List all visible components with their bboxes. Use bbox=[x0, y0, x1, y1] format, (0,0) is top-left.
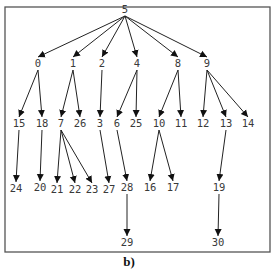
edge-5-to-2 bbox=[102, 16, 125, 57]
tree-node-6: 6 bbox=[114, 117, 120, 129]
edge-8-to-10 bbox=[159, 70, 178, 117]
tree-node-22: 22 bbox=[69, 183, 82, 195]
edge-10-to-17 bbox=[159, 130, 173, 181]
edge-9-to-12 bbox=[203, 70, 207, 117]
tree-node-28: 28 bbox=[121, 181, 134, 193]
edge-2-to-3 bbox=[100, 70, 102, 117]
tree-node-24: 24 bbox=[10, 182, 23, 194]
edge-8-to-11 bbox=[178, 70, 181, 117]
edge-7-to-23 bbox=[61, 130, 92, 183]
tree-node-1: 1 bbox=[70, 57, 76, 69]
edge-4-to-25 bbox=[136, 70, 137, 117]
tree-node-17: 17 bbox=[167, 181, 180, 193]
tree-node-7: 7 bbox=[58, 117, 64, 129]
edge-7-to-21 bbox=[57, 130, 61, 183]
edge-5-to-4 bbox=[125, 16, 137, 57]
edge-7-to-22 bbox=[61, 130, 75, 183]
edge-5-to-9 bbox=[125, 16, 207, 57]
diagram-frame bbox=[5, 7, 270, 252]
edge-0-to-18 bbox=[38, 70, 42, 117]
tree-node-5: 5 bbox=[122, 3, 128, 15]
figure-caption: b) bbox=[123, 254, 135, 269]
tree-node-27: 27 bbox=[103, 183, 116, 195]
tree-node-23: 23 bbox=[86, 183, 99, 195]
edge-9-to-13 bbox=[207, 70, 226, 117]
edge-3-to-27 bbox=[100, 130, 109, 183]
edge-10-to-16 bbox=[150, 130, 159, 181]
edge-13-to-19 bbox=[219, 130, 226, 181]
tree-node-0: 0 bbox=[35, 57, 41, 69]
edge-4-to-6 bbox=[117, 70, 137, 117]
tree-node-18: 18 bbox=[36, 117, 49, 129]
tree-node-3: 3 bbox=[97, 117, 103, 129]
edge-15-to-24 bbox=[16, 130, 19, 182]
tree-node-21: 21 bbox=[51, 183, 64, 195]
tree-node-25: 25 bbox=[130, 117, 143, 129]
edge-18-to-20 bbox=[40, 130, 42, 181]
tree-diagram: 5012489151872636251011121314242021222327… bbox=[0, 0, 273, 269]
tree-node-2: 2 bbox=[99, 57, 105, 69]
tree-node-14: 14 bbox=[242, 117, 255, 129]
tree-node-8: 8 bbox=[175, 57, 181, 69]
edge-19-to-30 bbox=[218, 194, 219, 236]
edge-5-to-8 bbox=[125, 16, 178, 57]
tree-node-29: 29 bbox=[121, 236, 134, 248]
edge-6-to-28 bbox=[117, 130, 127, 181]
tree-diagram-figure: 5012489151872636251011121314242021222327… bbox=[0, 0, 273, 269]
edge-0-to-15 bbox=[19, 70, 38, 117]
edge-1-to-26 bbox=[73, 70, 80, 117]
edge-9-to-14 bbox=[207, 70, 248, 117]
tree-node-16: 16 bbox=[144, 181, 157, 193]
tree-node-26: 26 bbox=[74, 117, 87, 129]
tree-node-30: 30 bbox=[212, 236, 225, 248]
tree-node-11: 11 bbox=[175, 117, 188, 129]
tree-node-9: 9 bbox=[204, 57, 210, 69]
tree-node-13: 13 bbox=[220, 117, 233, 129]
edge-1-to-7 bbox=[61, 70, 73, 117]
tree-node-4: 4 bbox=[134, 57, 140, 69]
tree-node-19: 19 bbox=[213, 181, 226, 193]
tree-node-15: 15 bbox=[13, 117, 26, 129]
tree-node-20: 20 bbox=[34, 181, 47, 193]
tree-node-12: 12 bbox=[197, 117, 210, 129]
tree-node-10: 10 bbox=[153, 117, 166, 129]
